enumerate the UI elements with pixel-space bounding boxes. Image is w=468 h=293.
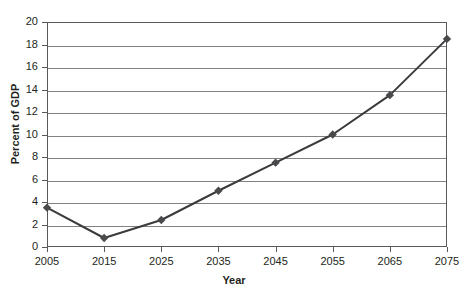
y-tick-mark bbox=[42, 202, 47, 203]
y-tick-mark bbox=[42, 112, 47, 113]
gridline bbox=[48, 113, 446, 114]
x-tick-label: 2065 bbox=[367, 256, 413, 267]
gridline bbox=[48, 203, 446, 204]
plot-area bbox=[47, 22, 447, 247]
x-tick-mark bbox=[447, 247, 448, 252]
x-tick-label: 2055 bbox=[310, 256, 356, 267]
x-tick-mark bbox=[333, 247, 334, 252]
y-tick-mark bbox=[42, 90, 47, 91]
gridline bbox=[48, 68, 446, 69]
x-tick-label: 2045 bbox=[253, 256, 299, 267]
chart-container: 02468101214161820 2005201520252035204520… bbox=[0, 0, 468, 293]
y-tick-mark bbox=[42, 180, 47, 181]
x-tick-mark bbox=[104, 247, 105, 252]
x-tick-mark bbox=[390, 247, 391, 252]
y-tick-mark bbox=[42, 22, 47, 23]
y-tick-mark bbox=[42, 157, 47, 158]
gridline bbox=[48, 46, 446, 47]
y-tick-mark bbox=[42, 67, 47, 68]
y-tick-mark bbox=[42, 45, 47, 46]
x-tick-mark bbox=[276, 247, 277, 252]
x-tick-label: 2015 bbox=[81, 256, 127, 267]
x-axis-title: Year bbox=[0, 274, 468, 286]
y-tick-label: 0 bbox=[8, 241, 38, 252]
gridline bbox=[48, 136, 446, 137]
y-tick-label: 20 bbox=[8, 16, 38, 27]
gridline bbox=[48, 181, 446, 182]
x-tick-label: 2035 bbox=[195, 256, 241, 267]
y-axis-title: Percent of GDP bbox=[9, 64, 21, 184]
x-tick-label: 2005 bbox=[24, 256, 70, 267]
x-tick-mark bbox=[218, 247, 219, 252]
y-tick-mark bbox=[42, 225, 47, 226]
x-tick-label: 2025 bbox=[138, 256, 184, 267]
clipped-header-text bbox=[0, 0, 468, 7]
y-tick-label: 4 bbox=[8, 196, 38, 207]
y-tick-mark bbox=[42, 135, 47, 136]
gridline bbox=[48, 158, 446, 159]
y-tick-label: 2 bbox=[8, 219, 38, 230]
x-tick-label: 2075 bbox=[424, 256, 468, 267]
gridline bbox=[48, 91, 446, 92]
x-tick-mark bbox=[47, 247, 48, 252]
y-tick-label: 18 bbox=[8, 39, 38, 50]
gridline bbox=[48, 226, 446, 227]
x-tick-mark bbox=[161, 247, 162, 252]
